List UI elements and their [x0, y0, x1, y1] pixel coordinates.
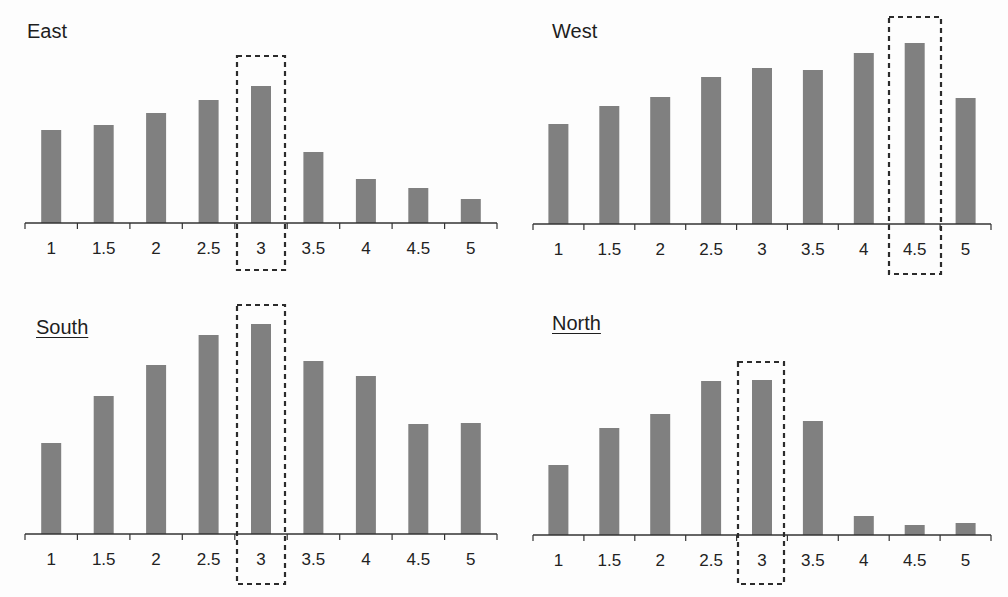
x-tick-label: 3 — [757, 551, 766, 570]
bar — [599, 428, 619, 535]
x-tick-label: 3.5 — [801, 551, 825, 570]
x-tick-label: 4 — [859, 551, 868, 570]
x-tick-label: 1 — [554, 551, 563, 570]
bar — [803, 421, 823, 535]
x-tick-label: 5 — [961, 551, 970, 570]
bar — [752, 380, 772, 535]
bar — [854, 516, 874, 535]
bar — [701, 381, 721, 535]
bar — [905, 525, 925, 535]
bar — [650, 414, 670, 535]
x-tick-label: 4.5 — [903, 551, 927, 570]
bar-chart-plot: 11.522.533.544.55 — [0, 0, 1008, 597]
bar — [548, 465, 568, 535]
x-tick-label: 2 — [655, 551, 664, 570]
bar — [956, 523, 976, 535]
x-tick-label: 2.5 — [699, 551, 723, 570]
x-tick-label: 1.5 — [597, 551, 621, 570]
